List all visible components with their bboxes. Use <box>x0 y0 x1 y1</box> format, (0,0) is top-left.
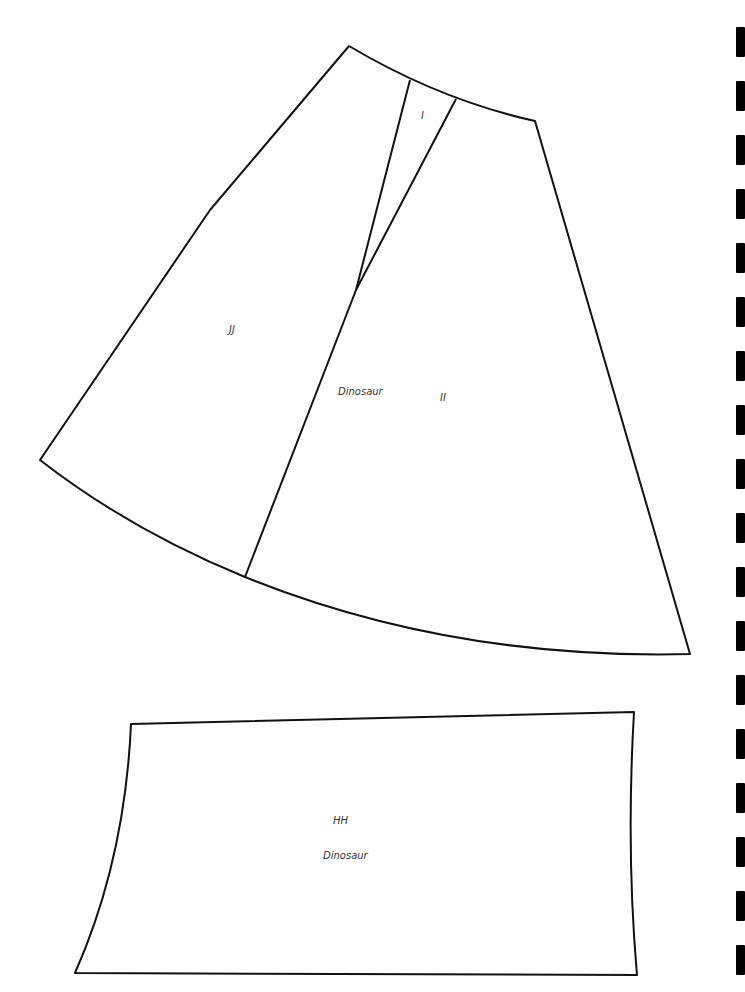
piece-label-ii: II <box>440 392 446 403</box>
registration-mark <box>736 675 745 705</box>
piece-name-ii: Dinosaur <box>338 386 383 397</box>
registration-mark <box>736 351 745 381</box>
seam-jj-ii <box>245 290 356 577</box>
registration-mark <box>736 189 745 219</box>
registration-mark <box>736 27 745 57</box>
registration-mark <box>736 567 745 597</box>
piece-name-hh: Dinosaur <box>323 850 368 861</box>
dart-i <box>356 80 456 290</box>
pattern-canvas <box>0 0 745 992</box>
registration-mark <box>736 405 745 435</box>
registration-mark <box>736 81 745 111</box>
registration-mark <box>736 297 745 327</box>
registration-mark <box>736 459 745 489</box>
registration-mark <box>736 135 745 165</box>
registration-mark <box>736 945 745 975</box>
registration-mark <box>736 837 745 867</box>
registration-mark <box>736 729 745 759</box>
registration-mark <box>736 243 745 273</box>
registration-mark <box>736 891 745 921</box>
piece-outline-top <box>40 46 690 654</box>
registration-mark <box>736 513 745 543</box>
piece-label-hh: HH <box>333 815 348 826</box>
registration-mark <box>736 783 745 813</box>
piece-label-i: I <box>421 110 424 121</box>
piece-outline-hh <box>75 712 637 975</box>
registration-mark <box>736 621 745 651</box>
piece-label-jj: JJ <box>229 324 235 335</box>
